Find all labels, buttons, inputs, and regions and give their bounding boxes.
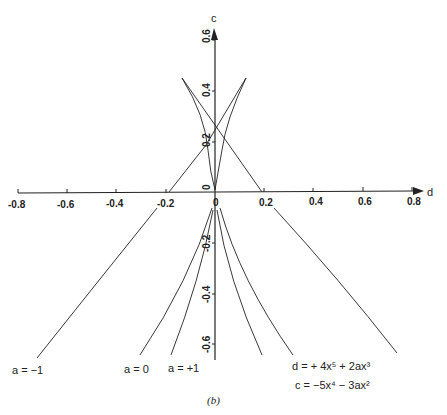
curve-a-neg1-upper-line2 xyxy=(182,78,262,192)
svg-text:0.4: 0.4 xyxy=(201,83,212,97)
swallowtail-chart: -0.8 -0.6 -0.4 -0.2 0 0.2 0.4 0.6 0.8 0.… xyxy=(0,0,447,415)
curve-a-neg1-lower-right xyxy=(274,208,397,353)
curve-a-0-right xyxy=(220,208,293,355)
svg-text:0: 0 xyxy=(213,197,219,208)
label-a-0: a = 0 xyxy=(124,363,149,375)
svg-text:0.6: 0.6 xyxy=(358,196,372,207)
svg-text:-0.2: -0.2 xyxy=(157,198,175,209)
equation-d: d = + 4x⁵ + 2ax³ xyxy=(292,360,371,372)
svg-text:0.4: 0.4 xyxy=(309,196,323,207)
svg-text:-0.4: -0.4 xyxy=(201,285,212,303)
figure-caption: (b) xyxy=(207,394,220,407)
label-a-neg1: a = −1 xyxy=(12,364,43,376)
label-a-pos1: a = +1 xyxy=(168,362,199,374)
x-axis-arrow-icon xyxy=(413,187,424,195)
svg-text:-0.6: -0.6 xyxy=(201,335,212,353)
curve-a-neg1-lower-left xyxy=(37,208,157,358)
svg-text:0.6: 0.6 xyxy=(201,29,212,43)
svg-text:-0.2: -0.2 xyxy=(201,234,212,252)
svg-text:0.8: 0.8 xyxy=(407,196,421,207)
svg-text:0: 0 xyxy=(201,184,212,190)
svg-text:0.2: 0.2 xyxy=(259,197,273,208)
x-tick-labels: -0.8 -0.6 -0.4 -0.2 0 0.2 0.4 0.6 0.8 xyxy=(8,196,421,210)
y-tick-labels: 0.6 0.4 0.2 0 -0.2 -0.4 -0.6 xyxy=(201,29,212,353)
curve-a-pos1-right xyxy=(217,210,262,355)
curves xyxy=(37,78,397,358)
svg-text:-0.4: -0.4 xyxy=(106,198,124,209)
svg-text:-0.6: -0.6 xyxy=(57,199,75,210)
equation-c: c = −5x⁴ − 3ax² xyxy=(295,379,370,391)
svg-text:-0.8: -0.8 xyxy=(8,199,26,210)
curve-a-neg1-cusp-right xyxy=(215,78,246,190)
y-axis-label: c xyxy=(211,12,217,24)
y-axis-arrow-icon xyxy=(211,28,218,40)
curve-a-0-left xyxy=(140,208,212,355)
curve-a-pos1-left xyxy=(171,210,213,355)
x-axis-label: d xyxy=(427,186,433,198)
